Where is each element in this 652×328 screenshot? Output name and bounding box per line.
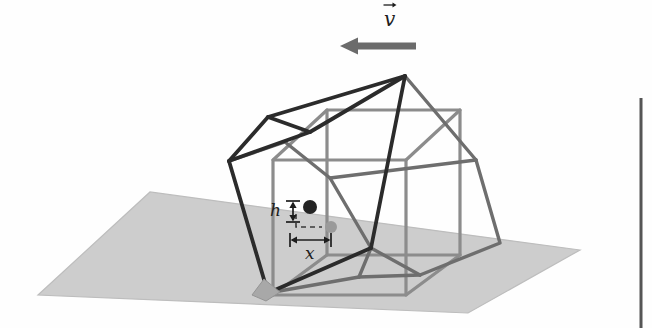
velocity-arrow-shaft	[356, 43, 416, 50]
tilted-cube-far-bottom-edge	[359, 275, 420, 277]
com-dot-raised	[303, 200, 317, 214]
velocity-arrow	[340, 38, 416, 55]
tilted-cube-bend-link	[268, 117, 310, 132]
height-label: h	[270, 202, 281, 219]
height-dimension-arrow-up	[289, 202, 296, 209]
physics-figure: v h x	[0, 0, 652, 328]
vector-arrow-accent-icon	[383, 0, 397, 8]
velocity-arrow-head	[340, 38, 358, 55]
velocity-label: v	[384, 9, 395, 29]
com-dot-original	[325, 221, 337, 233]
velocity-label-text: v	[384, 7, 395, 31]
horizontal-label: x	[305, 245, 315, 262]
figure-canvas	[0, 0, 652, 328]
